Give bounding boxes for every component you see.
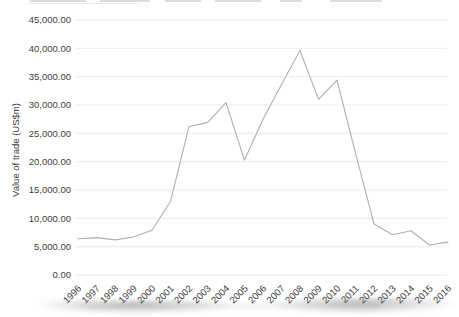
cropped-top-text-artifact: [330, 0, 382, 2]
x-tick-label: 2005: [227, 283, 250, 306]
y-tick-label: 45,000.00: [29, 14, 71, 25]
data-line-series: [78, 51, 448, 245]
x-tick-label: 2013: [375, 283, 398, 306]
y-axis-title: Value of trade (US$m): [10, 50, 24, 250]
x-tick-label: 2003: [190, 283, 213, 306]
x-tick-label: 2015: [412, 283, 435, 306]
x-tick-label: 2000: [135, 283, 158, 306]
x-tick-label: 2014: [394, 283, 417, 306]
x-tick-label: 2016: [431, 283, 454, 306]
y-tick-label: 20,000.00: [29, 156, 71, 167]
x-tick-label: 2006: [246, 283, 269, 306]
y-tick-label: 40,000.00: [29, 43, 71, 54]
y-tick-label: 30,000.00: [29, 99, 71, 110]
x-tick-label: 1997: [79, 283, 102, 306]
chart-canvas: 0.005,000.0010,000.0015,000.0020,000.002…: [0, 0, 459, 317]
cropped-top-text-artifact: [30, 0, 86, 2]
x-tick-label: 1999: [116, 283, 139, 306]
cropped-top-text-artifact: [215, 0, 261, 2]
x-tick-label: 2011: [339, 283, 361, 305]
x-tick-label: 2010: [320, 283, 343, 306]
cropped-top-text-artifact: [165, 0, 201, 2]
cropped-top-text-artifact: [100, 0, 150, 2]
line-chart: 0.005,000.0010,000.0015,000.0020,000.002…: [0, 0, 459, 317]
x-tick-label: 1998: [98, 283, 121, 306]
x-tick-label: 2008: [283, 283, 306, 306]
y-tick-label: 0.00: [53, 269, 72, 280]
y-tick-label: 25,000.00: [29, 128, 71, 139]
cropped-top-text-artifact: [280, 0, 302, 2]
y-tick-label: 15,000.00: [29, 184, 71, 195]
x-tick-label: 2002: [172, 283, 195, 306]
x-tick-label: 1996: [61, 283, 84, 306]
x-tick-label: 2012: [357, 283, 380, 306]
x-tick-label: 2001: [153, 283, 176, 306]
x-tick-label: 2007: [264, 283, 287, 306]
x-tick-label: 2009: [301, 283, 324, 306]
y-tick-label: 10,000.00: [29, 213, 71, 224]
cropped-top-text-artifact: [28, 3, 140, 4]
x-tick-label: 2004: [209, 283, 232, 306]
y-tick-label: 5,000.00: [34, 241, 71, 252]
y-tick-label: 35,000.00: [29, 71, 71, 82]
